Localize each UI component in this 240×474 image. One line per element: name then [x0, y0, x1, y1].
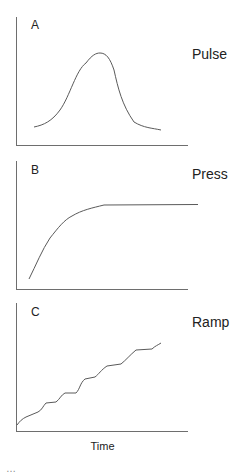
- panel-letter: A: [31, 18, 39, 32]
- press-curve: [29, 205, 198, 280]
- ramp-curve: [17, 343, 161, 425]
- panel-b-press: B Press: [0, 150, 240, 295]
- pulse-curve: [34, 53, 161, 130]
- panel-title: Pulse: [192, 46, 227, 62]
- panel-letter: C: [31, 305, 40, 319]
- x-axis-label: Time: [0, 440, 205, 452]
- figure-caption-cutoff: …: [6, 463, 17, 474]
- panel-letter: B: [31, 163, 39, 177]
- panel-title: Ramp: [192, 314, 229, 330]
- panel-a-pulse: A Pulse: [0, 0, 240, 150]
- panel-title: Press: [192, 166, 228, 182]
- panel-c-ramp: C Ramp Time: [0, 295, 240, 470]
